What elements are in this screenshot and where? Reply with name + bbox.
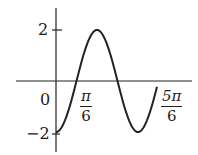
x-label-5pi-over-6: 5π 6: [161, 89, 182, 124]
x-label-pi-over-6: π 6: [80, 89, 92, 124]
y-label-2: 2: [38, 22, 48, 38]
origin-label: 0: [40, 92, 50, 108]
y-label-neg2: −2: [26, 126, 50, 142]
chart: 2 −2 0 π 6 5π 6: [0, 0, 198, 155]
